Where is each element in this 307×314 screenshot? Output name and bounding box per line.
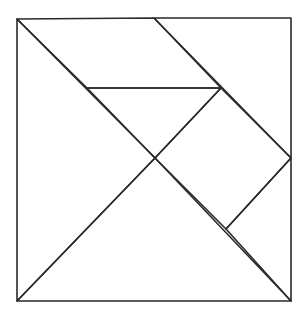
- small-triangle-bottom-right: [226, 158, 291, 301]
- large-triangle-bottom: [17, 158, 291, 301]
- square-right: [155, 88, 291, 229]
- small-triangle-top: [87, 88, 221, 158]
- tangram-diagram: [0, 0, 307, 314]
- large-triangle-left: [17, 19, 155, 301]
- parallelogram-top: [17, 18, 221, 88]
